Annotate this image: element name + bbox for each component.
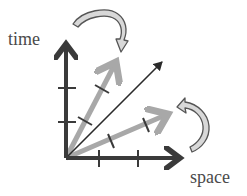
curved-arrow-top-icon [73, 10, 128, 52]
spacetime-diagram [0, 0, 247, 196]
rotated-time-axis [66, 62, 116, 158]
curved-arrow-right-icon [177, 98, 209, 152]
rotated-space-axis [66, 114, 168, 158]
light-line [66, 62, 162, 158]
